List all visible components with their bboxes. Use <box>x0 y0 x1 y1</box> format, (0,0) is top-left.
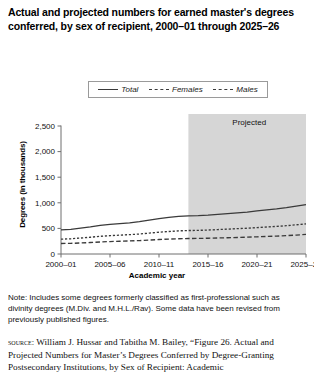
source-kicker: source: <box>8 337 34 347</box>
x-axis-tick-label: 2015–16 <box>192 260 224 269</box>
figure-source: source: William J. Hussar and Tabitha M.… <box>8 336 306 374</box>
y-axis-tick-label: 2,500 <box>35 122 56 131</box>
line-chart: Projected05001,0001,5002,0002,5002000–01… <box>0 104 314 289</box>
x-axis-tick-label: 2000–01 <box>45 260 77 269</box>
y-axis-tick-label: 1,500 <box>35 173 56 182</box>
legend-item-females: Females <box>149 85 203 94</box>
legend-label-females: Females <box>172 85 203 94</box>
x-axis-tick-label: 2025–26 <box>290 260 314 269</box>
projected-label: Projected <box>232 118 266 127</box>
legend-item-males: Males <box>213 85 257 94</box>
x-axis-tick-label: 2020–21 <box>241 260 273 269</box>
legend-label-total: Total <box>121 85 138 94</box>
y-axis-tick-label: 0 <box>51 250 56 259</box>
projected-region-band <box>188 114 306 254</box>
solid-line-icon <box>98 89 118 90</box>
y-axis-tick-label: 1,000 <box>35 199 56 208</box>
chart-container: Projected05001,0001,5002,0002,5002000–01… <box>0 104 314 289</box>
long-dashed-line-icon <box>213 89 233 90</box>
x-axis-tick-label: 2010–11 <box>144 260 175 269</box>
figure-note: Note: Includes some degrees formerly cla… <box>8 292 304 326</box>
legend-item-total: Total <box>98 85 138 94</box>
x-axis-title: Academic year <box>0 271 314 280</box>
legend-label-males: Males <box>236 85 257 94</box>
short-dashed-line-icon <box>149 89 169 90</box>
y-axis-tick-label: 2,000 <box>35 147 56 156</box>
page-title: Actual and projected numbers for earned … <box>8 6 300 33</box>
x-axis-tick-label: 2005–06 <box>94 260 126 269</box>
source-text: William J. Hussar and Tabitha M. Bailey,… <box>8 337 274 372</box>
y-axis-tick-label: 500 <box>42 224 56 233</box>
y-axis-title: Degrees (in thousands) <box>18 126 27 244</box>
chart-legend: Total Females Males <box>88 81 268 98</box>
